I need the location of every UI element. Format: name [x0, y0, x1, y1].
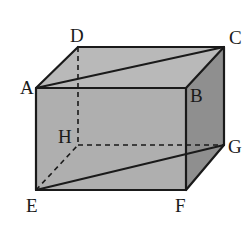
vertex-label-d: D — [70, 26, 84, 45]
vertex-label-f: F — [175, 196, 186, 215]
vertex-label-b: B — [190, 86, 203, 105]
cuboid-figure: A B C D E F G H — [0, 0, 252, 229]
vertex-label-g: G — [228, 137, 242, 156]
vertex-label-h: H — [58, 127, 72, 146]
vertex-label-c: C — [229, 28, 242, 47]
cuboid-drawing — [0, 0, 252, 229]
vertex-label-e: E — [26, 196, 38, 215]
vertex-label-a: A — [20, 78, 34, 97]
